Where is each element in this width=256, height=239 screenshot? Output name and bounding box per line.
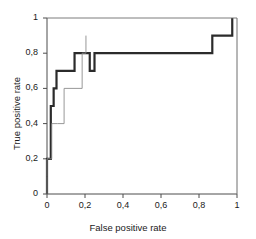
data-series-layer: [47, 18, 237, 194]
x-tick-label: 0,2: [73, 200, 97, 210]
y-tick-label: 1: [14, 12, 38, 22]
roc-chart-figure: 1 0,8 0,6 0,4 0,2 0 0 0,2 0,4 0,6 0,8 1 …: [0, 0, 256, 239]
x-tick-label: 1: [225, 200, 249, 210]
y-tick-label: 0: [14, 188, 38, 198]
x-tick-label: 0,6: [149, 200, 173, 210]
x-tick-label: 0,4: [111, 200, 135, 210]
roc-curve-bold: [47, 18, 232, 194]
x-axis-title: False positive rate: [0, 222, 256, 233]
y-axis-title: True positive rate: [11, 54, 22, 174]
x-tick-label: 0: [35, 200, 59, 210]
x-tick-marks: [47, 194, 237, 198]
plot-frame: [47, 18, 237, 194]
roc-curve-thin: [47, 36, 86, 194]
x-tick-label: 0,8: [187, 200, 211, 210]
